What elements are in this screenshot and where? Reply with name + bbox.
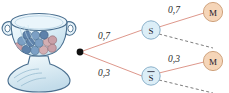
branch-lower-second (159, 62, 204, 73)
tree-graph: S S M M 0,7 0,3 0,7 0,3 (0, 0, 229, 93)
probability-tree-diagram: S S M M 0,7 0,3 0,7 0,3 (0, 0, 229, 93)
label-branch-upper-second: 0,7 (168, 5, 181, 15)
root-node-dot (77, 49, 84, 56)
branch-lower-first (80, 52, 142, 76)
node-m-upper: M (203, 2, 222, 21)
branch-upper-dashed (159, 34, 213, 48)
label-branch-lower-first: 0,3 (98, 68, 110, 78)
label-branch-upper-first: 0,7 (98, 31, 111, 41)
branch-upper-second (159, 13, 204, 27)
node-s: S (142, 21, 160, 39)
node-s-bar-label: S (148, 73, 153, 83)
node-m-upper-label: M (209, 8, 217, 18)
node-m-lower-label: M (209, 57, 217, 67)
branch-lower-dashed (159, 80, 213, 93)
node-s-bar: S (142, 67, 160, 85)
node-s-label: S (148, 26, 153, 36)
label-branch-lower-second: 0,3 (168, 54, 180, 64)
node-m-lower: M (203, 51, 222, 70)
branch-upper-first (80, 30, 142, 52)
